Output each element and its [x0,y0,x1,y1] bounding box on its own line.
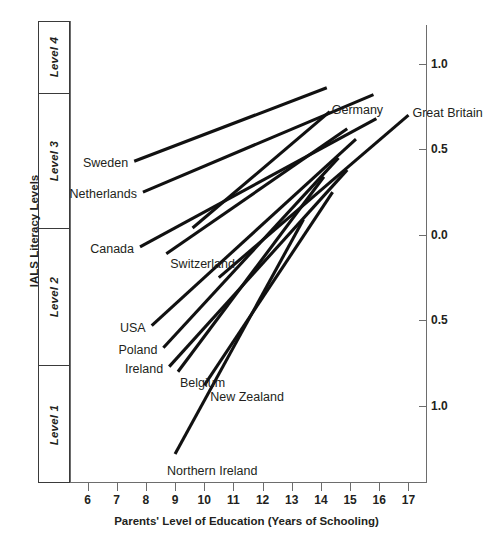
series-line [204,192,332,385]
chart-figure: Level 4Level 3Level 2Level 1 67891011121… [0,0,493,539]
series-label-belgium: Belgium [180,376,225,390]
series-label-new-zealand: New Zealand [210,390,284,404]
series-line [134,88,327,162]
y-axis-title-left: IALS Literacy Levels [28,151,40,311]
series-label-germany: Germany [332,103,383,117]
figure-caption [0,532,493,539]
series-label-northern-ireland: Northern Ireland [167,464,257,478]
series-label-canada: Canada [90,242,134,256]
series-label-great-britain: Great Britain [412,106,482,120]
data-lines [0,0,493,539]
series-label-ireland: Ireland [125,362,163,376]
series-label-poland: Poland [118,343,157,357]
series-label-netherlands: Netherlands [70,187,137,201]
series-label-usa: USA [120,321,146,335]
series-line [178,177,324,372]
x-axis-title: Parents' Level of Education (Years of Sc… [0,515,493,527]
series-label-switzerland: Switzerland [170,257,235,271]
series-label-sweden: Sweden [83,156,128,170]
series-line [152,139,356,326]
